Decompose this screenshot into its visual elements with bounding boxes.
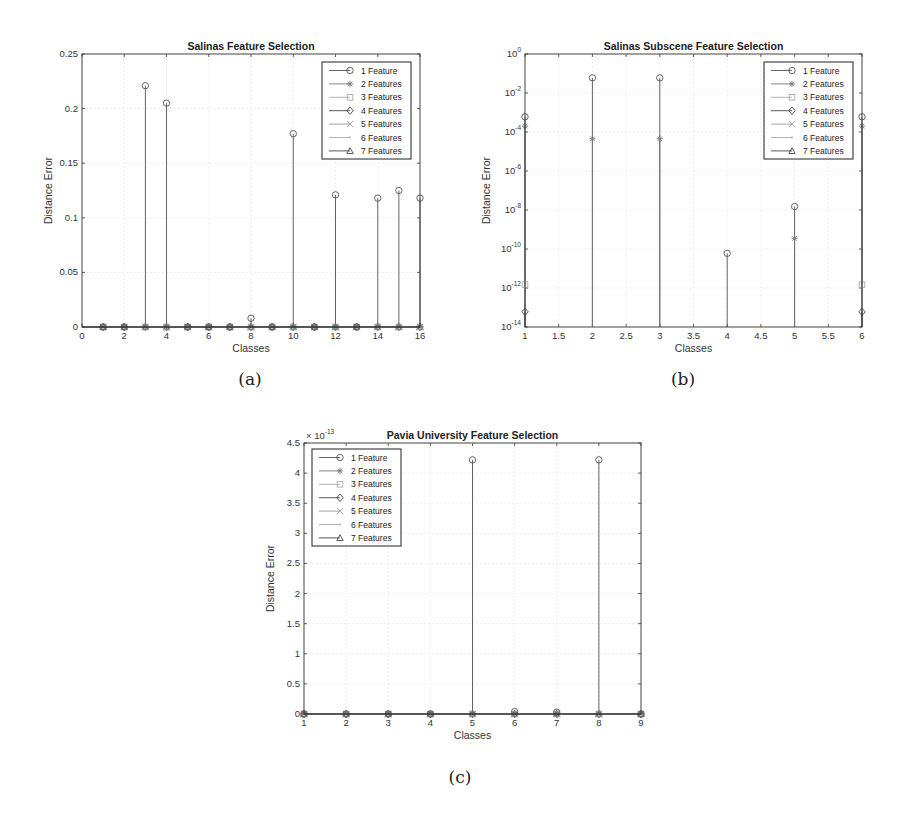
y-tick-label: 10-2 [505,85,522,98]
x-tick-label: 4 [164,330,169,341]
legend-label: 5 Features [361,119,402,129]
x-tick-label: 6 [512,717,517,728]
y-tick-label: 1.5 [287,618,300,629]
x-tick-label: 14 [372,330,383,341]
legend-label: 3 Features [351,479,392,489]
x-tick-label: 2 [122,330,127,341]
chart-title: Salinas Subscene Feature Selection [604,40,784,52]
figure: 024681012141600.050.10.150.20.25Salinas … [0,0,899,820]
legend-label: 4 Features [361,106,402,116]
x-tick-label: 0 [79,330,84,341]
x-tick-label: 1 [522,330,527,341]
y-tick-label: 3 [295,527,300,538]
y-tick-label: 10-10 [501,241,521,254]
legend: 1 Feature2 Features3 Features4 Features5… [312,449,401,546]
y-tick-label: 0.15 [60,157,79,168]
y-tick-label: 0 [295,708,300,719]
x-tick-label: 5.5 [822,330,835,341]
legend-label: 3 Features [361,92,402,102]
legend-label: 5 Features [351,506,392,516]
x-tick-label: 6 [206,330,211,341]
x-tick-label: 4 [725,330,730,341]
y-tick-label: 4.5 [287,437,300,448]
y-multiplier: × 10-13 [306,428,335,441]
caption-c: (c) [449,767,472,787]
chart-title: Pavia University Feature Selection [387,429,559,441]
y-tick-label: 10-4 [505,124,522,137]
legend-label: 2 Features [361,79,402,89]
x-tick-label: 12 [330,330,341,341]
y-tick-label: 10-8 [505,202,522,215]
x-tick-label: 3 [386,717,391,728]
x-axis-label: Classes [454,729,491,741]
x-tick-label: 1.5 [552,330,565,341]
y-tick-label: 10-12 [501,280,521,293]
y-tick-label: 0.2 [65,103,78,114]
chart-salinas-subscene-feature-selection: 11.522.533.544.555.5610010-210-410-610-8… [480,40,865,354]
y-tick-label: 0.25 [60,48,79,59]
x-axis-label: Classes [675,342,712,354]
legend-label: 2 Features [351,466,392,476]
y-tick-label: 0.1 [65,212,78,223]
legend-marker-icon [349,137,351,139]
x-tick-label: 2 [343,717,348,728]
y-tick-label: 0.5 [287,678,300,689]
x-tick-label: 4.5 [754,330,767,341]
legend-label: 4 Features [351,493,392,503]
legend-marker-icon [339,524,341,526]
y-tick-label: 0.05 [60,266,79,277]
legend-label: 1 Feature [351,453,388,463]
y-tick-label: 10-6 [505,163,522,176]
legend-label: 6 Features [361,133,402,143]
legend-label: 5 Features [803,119,844,129]
y-tick-label: 2.5 [287,557,300,568]
y-tick-label: 2 [295,588,300,599]
y-tick-label: 1 [295,648,300,659]
legend-label: 7 Features [803,146,844,156]
y-tick-label: 10-14 [501,319,521,332]
x-tick-label: 5 [792,330,797,341]
x-tick-label: 1 [301,717,306,728]
y-tick-label: 100 [507,46,522,59]
x-tick-label: 2 [590,330,595,341]
x-tick-label: 6 [859,330,864,341]
data-point-marker [791,235,797,241]
chart-title: Salinas Feature Selection [187,40,314,52]
y-tick-label: 3.5 [287,497,300,508]
legend-label: 2 Features [803,79,844,89]
x-tick-label: 5 [470,717,475,728]
legend-marker-icon [791,137,793,139]
y-axis-label: Distance Error [264,544,276,612]
x-tick-label: 8 [596,717,601,728]
y-tick-label: 4 [295,467,300,478]
y-axis-label: Distance Error [42,156,54,224]
legend-label: 1 Feature [803,66,840,76]
legend: 1 Feature2 Features3 Features4 Features5… [322,62,411,159]
legend-label: 7 Features [351,533,392,543]
data-point-marker [589,136,595,142]
x-tick-label: 16 [415,330,426,341]
caption-a: (a) [238,369,261,389]
legend-label: 6 Features [351,520,392,530]
data-point-marker [657,136,663,142]
legend-label: 3 Features [803,92,844,102]
chart-salinas-feature-selection: 024681012141600.050.10.150.20.25Salinas … [42,40,425,354]
legend-marker-icon [347,81,353,87]
legend-label: 1 Feature [361,66,398,76]
y-tick-label: 0 [73,321,78,332]
legend-label: 4 Features [803,106,844,116]
x-axis-label: Classes [232,342,269,354]
legend-label: 7 Features [361,146,402,156]
x-tick-label: 2.5 [619,330,632,341]
legend-marker-icon [337,468,343,474]
x-tick-label: 9 [638,717,643,728]
x-tick-label: 10 [288,330,299,341]
x-tick-label: 3 [657,330,662,341]
x-tick-label: 7 [554,717,559,728]
caption-b: (b) [671,369,695,389]
legend: 1 Feature2 Features3 Features4 Features5… [764,62,853,159]
legend-label: 6 Features [803,133,844,143]
x-tick-label: 8 [248,330,253,341]
y-axis-label: Distance Error [480,156,492,224]
legend-marker-icon [789,81,795,87]
